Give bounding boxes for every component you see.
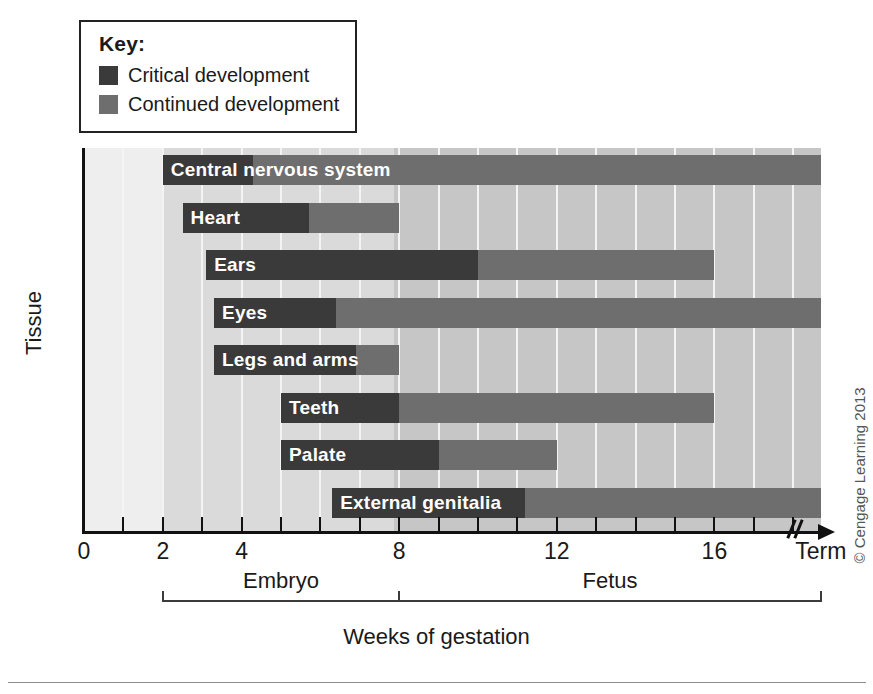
legend-label-continued: Continued development <box>128 93 339 115</box>
x-axis-tick <box>201 517 203 532</box>
x-axis-tick <box>635 517 637 532</box>
x-axis-tick <box>162 517 164 532</box>
bar-segment-continued <box>478 250 714 280</box>
x-axis-tick <box>319 517 321 532</box>
copyright-credit: © Cengage Learning 2013 <box>851 334 868 564</box>
y-axis-line <box>82 148 85 533</box>
bar-row: Ears <box>0 250 873 280</box>
bar-label: Legs and arms <box>214 345 359 375</box>
period-bracket-tick <box>398 591 400 602</box>
legend-item-continued: Continued development <box>99 93 355 115</box>
bar-segment-continued <box>399 393 714 423</box>
legend-swatch-critical <box>99 66 118 85</box>
bar-row: Eyes <box>0 298 873 328</box>
legend-swatch-continued <box>99 95 118 114</box>
x-axis-tick <box>398 517 400 532</box>
x-axis-tick-label: 2 <box>133 538 193 565</box>
bar-row: Legs and arms <box>0 345 873 375</box>
bar-row: External genitalia <box>0 488 873 518</box>
x-axis-tick-label: 8 <box>369 538 429 565</box>
x-axis-tick-label: 16 <box>684 538 744 565</box>
bar-row: Central nervous system <box>0 155 873 185</box>
bar-label: Heart <box>183 203 241 233</box>
bar-row: Palate <box>0 440 873 470</box>
x-axis-line <box>82 531 822 534</box>
y-axis-title: Tissue <box>21 273 47 373</box>
bar-label: External genitalia <box>332 488 501 518</box>
x-axis-tick-label: 4 <box>212 538 272 565</box>
x-axis-tick <box>674 517 676 532</box>
legend-label-critical: Critical development <box>128 64 309 86</box>
legend-item-critical: Critical development <box>99 64 355 86</box>
legend-title: Key: <box>99 32 355 56</box>
bar-segment-continued <box>356 345 399 375</box>
bar-label: Palate <box>281 440 346 470</box>
x-axis-tick <box>241 517 243 532</box>
footer-divider <box>8 682 866 683</box>
bar-row: Teeth <box>0 393 873 423</box>
bar-row: Heart <box>0 203 873 233</box>
bar-label: Eyes <box>214 298 267 328</box>
x-axis-tick <box>280 517 282 532</box>
x-axis-tick <box>516 517 518 532</box>
bar-segment-continued <box>336 298 821 328</box>
bar-label: Central nervous system <box>163 155 391 185</box>
x-axis-tick <box>753 517 755 532</box>
bar-segment-continued <box>309 203 400 233</box>
period-label: Fetus <box>510 568 710 594</box>
period-label: Embryo <box>181 568 381 594</box>
x-axis-tick-label: 12 <box>527 538 587 565</box>
x-axis-tick <box>595 517 597 532</box>
bar-segment-continued <box>439 440 557 470</box>
x-axis-tick <box>556 517 558 532</box>
x-axis-tick <box>792 517 794 532</box>
x-axis-tick <box>713 517 715 532</box>
period-bracket-line <box>163 600 822 602</box>
bar-label: Teeth <box>281 393 339 423</box>
period-bracket-tick <box>820 591 822 602</box>
x-axis-tick <box>122 517 124 532</box>
legend-key-box: Key: Critical development Continued deve… <box>79 20 357 133</box>
x-axis-tick <box>359 517 361 532</box>
x-axis-tick-label: 0 <box>54 538 114 565</box>
bar-segment-continued <box>525 488 821 518</box>
bar-label: Ears <box>206 250 256 280</box>
x-axis-tick <box>477 517 479 532</box>
x-axis-caption: Weeks of gestation <box>0 624 873 650</box>
period-bracket-tick <box>162 591 164 602</box>
x-axis-tick-label: Term <box>791 538 851 565</box>
x-axis-tick <box>438 517 440 532</box>
